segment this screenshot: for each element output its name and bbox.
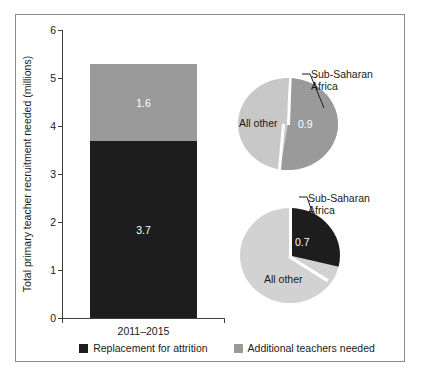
y-tick-label-6: 6	[16, 25, 56, 35]
pie-top-callout-label: Sub-Saharan Africa	[311, 68, 373, 92]
chart-legend: Replacement for attrition Additional tea…	[62, 343, 392, 354]
pie-bottom-gap-upper	[289, 208, 292, 256]
bar-segment-additional-teachers[interactable]: 1.6	[90, 64, 197, 141]
legend-item-replacement-attrition[interactable]: Replacement for attrition	[79, 343, 207, 354]
y-tick-6	[58, 30, 62, 31]
y-tick-2	[58, 222, 62, 223]
y-tick-5	[58, 78, 62, 79]
y-tick-3	[58, 174, 62, 175]
legend-item-additional-teachers[interactable]: Additional teachers needed	[234, 343, 375, 354]
chart-figure: 6 5 4 3 2 1 0 Total primary teacher recr…	[0, 0, 422, 380]
bar-segment-replacement-attrition-value: 3.7	[136, 224, 151, 236]
pie-bottom-callout-line1: Sub-Saharan	[308, 192, 370, 204]
pie-top-other-label: All other	[239, 117, 278, 129]
figure-border	[15, 14, 405, 362]
pie-top-callout-line2: Africa	[311, 80, 373, 92]
pie-top-callout-line1: Sub-Saharan	[311, 68, 373, 80]
bar-segment-replacement-attrition[interactable]: 3.7	[90, 141, 197, 318]
pie-bottom-slice-value: 0.7	[295, 236, 310, 248]
y-tick-label-0: 0	[16, 313, 56, 323]
y-tick-label-6-wrap: 6	[8, 25, 56, 35]
y-axis-line	[62, 30, 63, 319]
pie-bottom-callout-label: Sub-Saharan Africa	[308, 192, 370, 216]
pie-top-slice-value: 0.9	[298, 118, 313, 130]
x-axis-line	[62, 318, 225, 319]
y-tick-4	[58, 126, 62, 127]
pie-bottom-callout-line2: Africa	[308, 204, 370, 216]
legend-label-replacement: Replacement for attrition	[93, 343, 207, 354]
bar-segment-additional-teachers-value: 1.6	[136, 97, 151, 109]
x-axis-category-label: 2011–2015	[90, 325, 197, 337]
pie-bottom-other-label: All other	[264, 273, 303, 285]
legend-label-additional: Additional teachers needed	[248, 343, 375, 354]
y-axis-title: Total primary teacher recruitment needed…	[21, 49, 33, 299]
y-tick-label-0-wrap: 0	[8, 313, 56, 323]
x-tick-right	[224, 319, 225, 323]
legend-swatch-icon-replacement	[79, 344, 88, 353]
legend-swatch-icon-additional	[234, 344, 243, 353]
y-tick-1	[58, 270, 62, 271]
x-tick-left	[62, 319, 63, 323]
